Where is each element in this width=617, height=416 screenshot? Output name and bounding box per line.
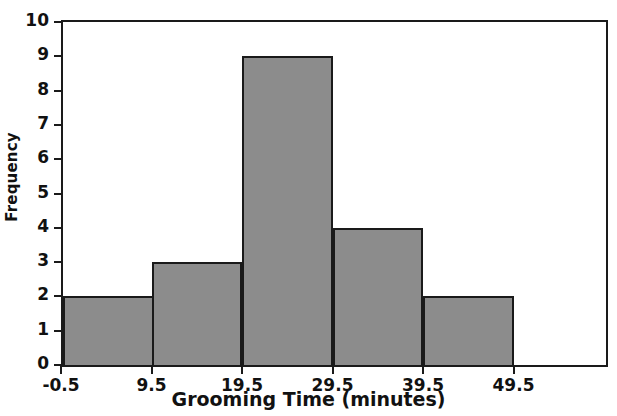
- x-axis-title: Grooming Time (minutes): [0, 388, 617, 410]
- y-axis-tick-label: 10: [25, 10, 49, 30]
- histogram-bar: [242, 56, 333, 365]
- y-axis-tick-label: 1: [37, 319, 49, 339]
- y-axis-title: Frequency: [3, 117, 21, 237]
- y-axis-tick-label: 8: [37, 79, 49, 99]
- y-axis-tick: [54, 193, 63, 195]
- x-axis-tick: [60, 365, 62, 374]
- y-axis-tick-label: 0: [37, 353, 49, 373]
- y-axis-tick: [54, 21, 63, 23]
- y-axis-tick-label: 3: [37, 250, 49, 270]
- x-axis-tick: [513, 365, 515, 374]
- histogram-bar: [152, 262, 243, 365]
- y-axis-tick: [54, 261, 63, 263]
- y-axis-tick: [54, 124, 63, 126]
- y-axis-tick-label: 4: [37, 216, 49, 236]
- y-axis-tick-label: 7: [37, 113, 49, 133]
- x-axis-tick: [241, 365, 243, 374]
- y-axis-tick: [54, 158, 63, 160]
- x-axis-tick: [332, 365, 334, 374]
- bars-layer: [63, 22, 606, 365]
- histogram-bar: [63, 296, 154, 365]
- y-axis-tick: [54, 227, 63, 229]
- y-axis-tick: [54, 330, 63, 332]
- y-axis-tick: [54, 295, 63, 297]
- y-axis-tick: [54, 55, 63, 57]
- plot-area: [61, 20, 608, 367]
- histogram-bar: [333, 228, 424, 365]
- y-axis-tick: [54, 90, 63, 92]
- y-axis-tick-label: 5: [37, 182, 49, 202]
- histogram-figure: 012345678910 Frequency -0.59.519.529.539…: [0, 0, 617, 416]
- x-axis-tick: [422, 365, 424, 374]
- y-axis-tick-label: 2: [37, 284, 49, 304]
- histogram-bar: [423, 296, 514, 365]
- y-axis-tick-label: 9: [37, 44, 49, 64]
- y-axis-tick-label: 6: [37, 147, 49, 167]
- x-axis-tick: [151, 365, 153, 374]
